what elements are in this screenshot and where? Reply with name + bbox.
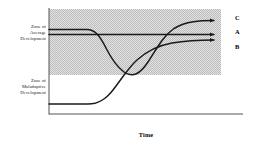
zone-maladaptive-line-3: Development <box>2 90 46 96</box>
curve-label-c: C <box>235 14 240 21</box>
chart-plot-area <box>0 0 264 151</box>
x-axis-title: Time <box>0 131 264 138</box>
curve-label-a: A <box>235 28 240 35</box>
x-axis-title-text: Time <box>139 131 153 138</box>
zone-maladaptive-development-label: Zone of Maladaptive Development <box>2 78 46 95</box>
curve-label-b: B <box>235 43 239 50</box>
zone-average-band <box>49 9 221 75</box>
zone-average-line-3: Development <box>2 36 46 42</box>
zone-average-development-label: Zone of Average Development <box>2 24 46 41</box>
developmental-trajectories-chart: Zone of Average Development Zone of Mala… <box>0 0 264 151</box>
